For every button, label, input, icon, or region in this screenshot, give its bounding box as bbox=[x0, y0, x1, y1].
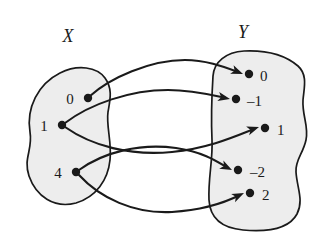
element-label-y-negative-2: –2 bbox=[249, 164, 265, 180]
element-label-x-0: 0 bbox=[66, 91, 74, 107]
element-dot-y-negative-2 bbox=[234, 166, 242, 174]
set-x-blob bbox=[27, 68, 110, 205]
element-label-y-0: 0 bbox=[260, 68, 268, 84]
element-label-y-1: 1 bbox=[277, 122, 285, 138]
element-dot-x-0 bbox=[84, 94, 92, 102]
set-label-x: X bbox=[62, 26, 75, 46]
set-label-y: Y bbox=[238, 22, 250, 42]
element-label-x-4: 4 bbox=[54, 165, 62, 181]
element-dot-x-4 bbox=[72, 168, 80, 176]
element-label-y-2: 2 bbox=[262, 187, 270, 203]
element-dot-x-1 bbox=[58, 121, 66, 129]
element-label-y-negative-1: –1 bbox=[246, 93, 262, 109]
diagram-canvas: 0 1 4 0 –1 1 –2 2 X Y bbox=[0, 0, 317, 236]
element-dot-y-2 bbox=[246, 189, 254, 197]
element-dot-y-1 bbox=[261, 124, 269, 132]
element-dot-y-negative-1 bbox=[232, 95, 240, 103]
element-dot-y-0 bbox=[245, 70, 253, 78]
element-label-x-1: 1 bbox=[40, 118, 48, 134]
set-mapping-figure: 0 1 4 0 –1 1 –2 2 X Y bbox=[0, 0, 317, 236]
